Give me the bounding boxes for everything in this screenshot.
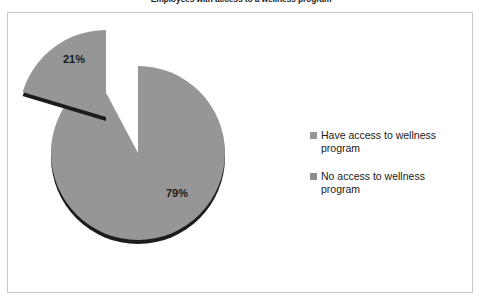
chart-legend: Have access to wellness program No acces… — [310, 129, 470, 211]
data-label-have-access: 79% — [166, 187, 188, 199]
legend-label-have-access: Have access to wellness program — [321, 129, 453, 155]
legend-swatch-icon — [310, 132, 317, 139]
pie-chart-plot-area: 21% 79% Have access to wellness program … — [8, 13, 474, 294]
legend-swatch-icon — [310, 173, 317, 180]
legend-item-no-access[interactable]: No access to wellness program — [310, 170, 470, 196]
chart-frame: 21% 79% Have access to wellness program … — [7, 12, 473, 293]
legend-label-no-access: No access to wellness program — [321, 170, 453, 196]
legend-item-have-access[interactable]: Have access to wellness program — [310, 129, 470, 155]
data-label-no-access: 21% — [63, 53, 85, 65]
chart-title: Employees with access to a wellness prog… — [0, 0, 482, 5]
